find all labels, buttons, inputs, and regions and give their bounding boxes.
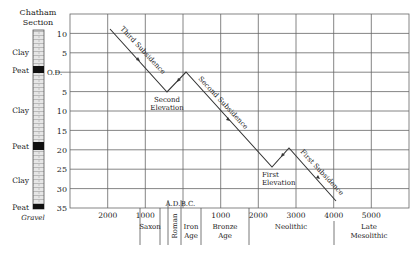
period-late-mesolithic-2: Mesolithic [350, 232, 387, 240]
y-tick: 20 [57, 146, 67, 155]
period-bronze-1: Bronze [212, 223, 237, 231]
annotation-second-elevation-2: Elevation [150, 104, 184, 112]
x-axis-labels: 2000 1000 1000 2000 3000 4000 5000 [98, 211, 381, 220]
direction-arrows [136, 57, 320, 179]
peat-layer-1 [33, 66, 44, 73]
stratum-label-clay-1: Clay [12, 48, 30, 57]
peat-layer-3 [33, 204, 44, 209]
x-tick: 1000 [136, 211, 155, 220]
y-tick-od: O.D. [47, 69, 62, 77]
x-tick: 3000 [286, 211, 305, 220]
period-saxon: Saxon [139, 223, 161, 231]
annotation-first-elevation-1: First [262, 171, 279, 179]
period-neolithic: Neolithic [275, 223, 308, 231]
y-axis-labels: 10 5 O.D. 5 10 15 20 25 30 35 [47, 30, 67, 214]
annotation-second-subsidence: Second Subsidence [197, 75, 250, 131]
sea-level-chart: Chatham Section Clay Peat Clay Peat Clay… [0, 0, 419, 253]
period-iron-1: Iron [184, 223, 199, 231]
x-tick: 5000 [362, 211, 381, 220]
stratum-label-peat-1: Peat [12, 66, 29, 75]
annotation-third-subsidence: Third Subsidence [119, 25, 167, 76]
peat-layer-2 [33, 142, 44, 150]
stratum-label-peat-2: Peat [12, 142, 29, 151]
period-late-mesolithic-1: Late [361, 223, 377, 231]
x-tick: 1000 [211, 211, 230, 220]
section-title-line1: Chatham [20, 8, 57, 17]
y-tick: 15 [57, 127, 67, 136]
stratum-label-peat-3: Peat [12, 203, 29, 212]
x-tick: 4000 [324, 211, 343, 220]
y-tick: 10 [57, 107, 67, 116]
y-tick: 5 [62, 88, 67, 97]
period-bronze-2: Age [217, 232, 232, 240]
y-tick: 5 [62, 49, 67, 58]
period-roman: Roman [171, 213, 179, 238]
y-tick: 35 [57, 204, 67, 213]
y-tick: 25 [57, 165, 67, 174]
x-tick: 2000 [249, 211, 268, 220]
stratum-label-gravel: Gravel [21, 214, 44, 222]
annotation-first-elevation-2: Elevation [262, 179, 296, 187]
y-tick: 10 [57, 30, 67, 39]
era-marker-ad: A.D. [165, 200, 181, 208]
period-iron-2: Age [183, 232, 198, 240]
stratum-label-clay-3: Clay [12, 176, 30, 185]
strata-column [33, 30, 44, 209]
annotation-first-subsidence: First Subsidence [299, 148, 346, 197]
section-title-line2: Section [23, 18, 53, 27]
x-tick: 2000 [98, 211, 117, 220]
y-tick: 30 [57, 185, 67, 194]
annotation-second-elevation-1: Second [154, 96, 181, 104]
era-marker-bc: B.C. [181, 200, 196, 208]
stratum-label-clay-2: Clay [12, 106, 30, 115]
